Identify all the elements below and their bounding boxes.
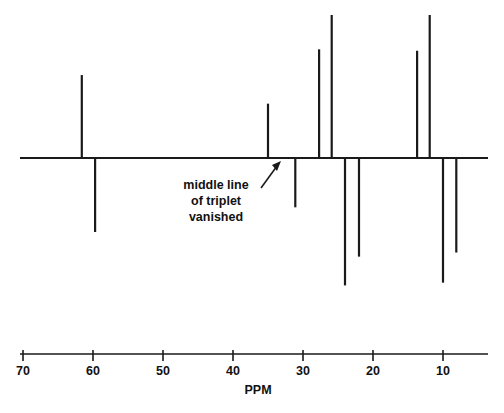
ppm-tick-label: 40 (226, 364, 240, 378)
annotation-arrow-shaft (261, 166, 277, 188)
ppm-tick-label: 70 (16, 364, 30, 378)
annotation-line-3: vanished (170, 209, 262, 225)
ppm-tick-label: 60 (86, 364, 100, 378)
peak-lines-group (82, 15, 457, 285)
annotation-arrow-head (272, 161, 281, 171)
ppm-tick-label: 10 (436, 364, 450, 378)
ppm-tick-label: 20 (366, 364, 380, 378)
annotation-text-block: middle line of triplet vanished (170, 177, 262, 225)
annotation-arrow (261, 161, 281, 188)
annotation-line-1: middle line (170, 177, 262, 193)
ppm-axis-group (20, 350, 488, 361)
ppm-tick-label: 30 (296, 364, 310, 378)
ppm-axis-ticks (23, 350, 443, 361)
ppm-unit-label: PPM (244, 383, 271, 397)
annotation-line-2: of triplet (170, 193, 262, 209)
nmr-spectrum-figure: middle line of triplet vanished 70605040… (0, 0, 504, 413)
ppm-tick-label: 50 (156, 364, 170, 378)
